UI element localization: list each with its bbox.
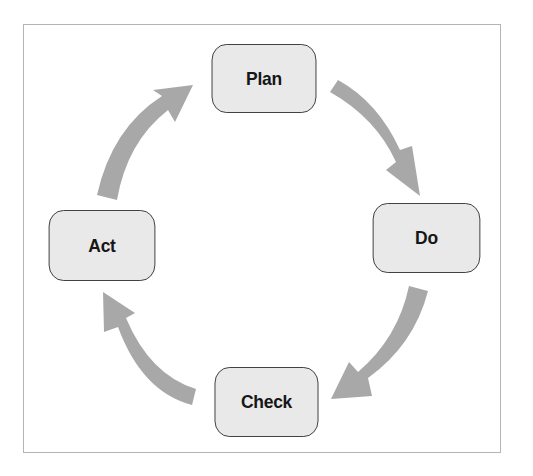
arrow-check-to-act <box>103 292 196 405</box>
node-do-label: Do <box>415 227 438 249</box>
arrow-plan-to-do <box>330 80 420 196</box>
node-check-label: Check <box>241 391 292 413</box>
arrow-do-to-check <box>331 286 428 399</box>
node-do: Do <box>373 203 481 273</box>
node-act: Act <box>49 210 156 281</box>
node-plan: Plan <box>212 44 317 113</box>
node-act-label: Act <box>88 235 115 257</box>
node-plan-label: Plan <box>246 68 282 90</box>
node-check: Check <box>215 367 319 437</box>
arrow-act-to-plan <box>97 85 193 200</box>
